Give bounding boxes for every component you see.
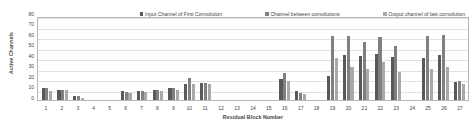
bar-group-15 [261, 18, 277, 100]
bar-series2-cat21 [366, 69, 369, 101]
bar-series0-cat17 [295, 91, 298, 100]
bar-series0-cat25 [422, 58, 425, 100]
y-axis-tick-80: 80 [18, 12, 34, 17]
y-axis-tick-50: 50 [18, 43, 34, 48]
bar-series2-cat6 [128, 93, 131, 100]
bar-series1-cat27 [458, 81, 461, 100]
x-axis-tick-4: 4 [86, 104, 102, 113]
bar-series0-cat1 [42, 88, 45, 100]
bar-group-11 [198, 18, 214, 100]
bar-series0-cat22 [375, 54, 378, 100]
y-axis-tick-10: 10 [18, 85, 34, 90]
chart-legend: Input Channel of First ConvolutionChanne… [140, 9, 465, 19]
x-axis-tick-15: 15 [261, 104, 277, 113]
bar-group-10 [182, 18, 198, 100]
x-axis-tick-3: 3 [70, 104, 86, 113]
legend-entry-1: Channel between convolutions [265, 11, 339, 17]
x-axis-tick-6: 6 [118, 104, 134, 113]
y-axis-tick-60: 60 [18, 33, 34, 38]
x-axis-tick-20: 20 [341, 104, 357, 113]
y-axis-tick-labels: 01020304050607080 [18, 14, 34, 102]
x-axis-tick-21: 21 [356, 104, 372, 113]
bar-series1-cat25 [426, 36, 429, 100]
y-axis-tick-70: 70 [18, 22, 34, 27]
bar-series2-cat19 [335, 58, 338, 100]
bar-series2-cat7 [144, 92, 147, 100]
x-axis-tick-10: 10 [181, 104, 197, 113]
x-axis-tick-13: 13 [229, 104, 245, 113]
bars-layer [38, 18, 468, 100]
bar-series2-cat8 [160, 91, 163, 100]
bar-series2-cat26 [446, 67, 449, 100]
x-axis-tick-11: 11 [197, 104, 213, 113]
x-axis-tick-26: 26 [436, 104, 452, 113]
bar-series0-cat9 [168, 88, 171, 100]
x-axis-tick-23: 23 [388, 104, 404, 113]
bar-series2-cat10 [192, 84, 195, 100]
bar-group-16 [277, 18, 293, 100]
bar-series1-cat3 [77, 96, 80, 100]
bar-series1-cat6 [125, 92, 128, 100]
bar-group-21 [356, 18, 372, 100]
y-axis-title: Active Channels [8, 23, 14, 83]
bar-series0-cat7 [137, 91, 140, 100]
bar-group-6 [118, 18, 134, 100]
bar-group-19 [324, 18, 340, 100]
bar-series1-cat11 [204, 83, 207, 100]
bar-series1-cat1 [45, 88, 48, 100]
legend-label-0: Input Channel of First Convolution [145, 11, 222, 17]
bar-series1-cat19 [331, 36, 334, 100]
bar-series2-cat16 [287, 81, 290, 100]
legend-entry-0: Input Channel of First Convolution [140, 11, 222, 17]
y-axis-tick-20: 20 [18, 75, 34, 80]
x-axis-tick-1: 1 [38, 104, 54, 113]
bar-series1-cat9 [172, 88, 175, 100]
bar-group-17 [293, 18, 309, 100]
y-axis-tick-40: 40 [18, 54, 34, 59]
bar-group-27 [451, 18, 467, 100]
bar-series2-cat11 [208, 84, 211, 100]
bar-series1-cat22 [378, 37, 381, 100]
bar-series2-cat20 [350, 67, 353, 100]
bar-series0-cat10 [184, 84, 187, 100]
bar-series2-cat9 [176, 90, 179, 101]
bar-series1-cat16 [283, 73, 286, 100]
x-axis-title: Residual Block Number [37, 114, 469, 120]
x-axis-tick-labels: 1234567891011121314151617181920212223242… [37, 104, 469, 113]
bar-group-12 [213, 18, 229, 100]
y-axis-tick-0: 0 [18, 96, 34, 101]
bar-series0-cat16 [279, 79, 282, 100]
x-axis-tick-27: 27 [452, 104, 468, 113]
plot-area [37, 17, 469, 101]
bar-series2-cat23 [398, 72, 401, 100]
bar-series0-cat26 [438, 55, 441, 100]
legend-swatch-icon-0 [140, 12, 143, 15]
bar-series0-cat8 [153, 90, 156, 101]
bar-series0-cat3 [73, 96, 76, 100]
x-axis-tick-18: 18 [309, 104, 325, 113]
bar-group-5 [102, 18, 118, 100]
bar-group-18 [309, 18, 325, 100]
x-axis-tick-2: 2 [54, 104, 70, 113]
bar-series2-cat17 [303, 94, 306, 100]
bar-series0-cat27 [454, 82, 457, 100]
bar-group-2 [55, 18, 71, 100]
bar-series0-cat11 [200, 83, 203, 100]
bar-group-1 [39, 18, 55, 100]
bar-series2-cat3 [81, 98, 84, 100]
bar-series0-cat19 [327, 76, 330, 100]
bar-series1-cat7 [141, 91, 144, 100]
bar-group-14 [245, 18, 261, 100]
bar-series0-cat6 [121, 91, 124, 100]
bar-series1-cat21 [363, 42, 366, 100]
bar-group-4 [87, 18, 103, 100]
bar-group-13 [229, 18, 245, 100]
bar-group-3 [71, 18, 87, 100]
x-axis-tick-5: 5 [102, 104, 118, 113]
y-axis-tick-30: 30 [18, 64, 34, 69]
bar-series0-cat2 [57, 90, 60, 101]
legend-swatch-icon-1 [265, 12, 268, 15]
x-axis-tick-17: 17 [293, 104, 309, 113]
x-axis-tick-9: 9 [165, 104, 181, 113]
bar-group-8 [150, 18, 166, 100]
